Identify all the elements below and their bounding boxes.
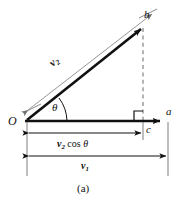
theta-arc [59,98,67,121]
label-point-b: b [144,9,150,20]
diagram-canvas [0,0,182,203]
label-point-a: a [166,106,172,117]
label-v1: v1 [81,161,89,173]
dimension-line-v2 [23,9,157,113]
label-v2cos-angle: θ [83,138,88,149]
label-v1-subscript: 1 [85,165,88,172]
vector-v2-arrow [27,29,141,120]
label-point-origin: O [8,115,17,127]
figure-caption: (a) [77,183,89,194]
label-v2-cos-theta: v2 cos θ [57,139,88,151]
vector-diagram-figure: v2 b a c O θ v2 cos θ v1 (a) [0,0,182,203]
label-angle-theta: θ [52,102,57,113]
right-angle-marker [134,111,143,120]
label-point-c: c [146,124,151,135]
label-v2cos-trig: cos [67,138,80,149]
